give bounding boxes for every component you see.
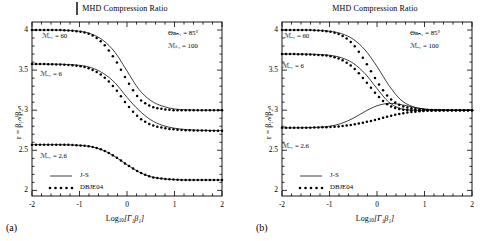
param-theta-bn1: Θʙₙ₁ = 85° [410,29,440,37]
legend-dot-dbje04 [310,187,313,190]
ytick-label: 3.5 [3,65,28,74]
xlabel-log: Log [106,214,119,223]
axis-x-label: Log10[Γ₁β₁] [0,214,250,223]
axis-y-label: r = β₁ₙ/β₂ₙ [264,106,273,139]
curve-dbje04-ma2-6 [31,143,224,181]
curve-dbje04-ma60 [281,29,474,112]
legend-js: J-S [330,171,339,178]
legend-dot-dbje04 [321,187,324,190]
curve-js-ma6 [282,54,472,110]
curve-dbje04-ma2-6 [281,109,474,129]
legend-js: J-S [80,171,89,178]
ytick-label: 2 [253,185,278,194]
legend-dot-dbje04 [49,187,52,190]
curve-label-ma-2p6: ℳₐ₁ = 2.6 [40,152,67,160]
legend-dot-dbje04 [71,187,74,190]
curve-js-ma60 [282,30,472,110]
axis-x-label: Log10[Γ₁β₁] [250,214,500,223]
xtick-label: 0 [115,200,139,209]
legend-dbje04: DBJE04 [330,183,353,190]
ytick-label: 3.5 [253,65,278,74]
curve-js-ma2-6 [32,145,222,180]
xtick-label: -1 [318,200,342,209]
param-ms1: ℳₛ₁ = 100 [168,42,198,50]
curve-dbje04-ma6 [281,53,474,112]
curve-label-ma-6: ℳₐ₁ = 6 [282,62,304,70]
legend-dot-dbje04 [299,187,302,190]
ytick-label: 2.5 [253,145,278,154]
plot-panel-b: MHD Compression Ratio(b)-2-101222.533.54… [250,0,500,241]
xtick-label: 2 [210,200,234,209]
curve-js-ma2-6 [282,103,472,127]
xtick-label: 2 [460,200,484,209]
xtick-label: 0 [365,200,389,209]
xlabel-log: Log [356,214,369,223]
xtick-label: -2 [270,200,294,209]
axis-y-label: r = β₁ₙ/β₂ₙ [14,106,23,139]
legend-dot-dbje04 [65,187,68,190]
curve-label-ma-60: ℳₐ₁ = 60 [284,32,309,40]
legend-dot-dbje04 [315,187,318,190]
xlabel-body: [Γ₁β₁] [374,214,394,223]
xtick-label: -2 [20,200,44,209]
plot-panel-a: MHD Compression Ratio(a)-2-101222.533.54… [0,0,250,241]
xtick-label: 1 [413,200,437,209]
curve-label-ma-6: ℳₐ₁ = 6 [40,70,62,78]
param-theta-bn1: Θʙₙ₁ = 85° [168,29,198,37]
curve-label-ma-60: ℳₐ₁ = 60 [42,32,67,40]
ytick-label: 4 [253,25,278,34]
legend-dbje04: DBJE04 [80,183,103,190]
ytick-label: 4 [3,25,28,34]
legend-dot-dbje04 [54,187,57,190]
figure-root: MHD Compression Ratio(a)-2-101222.533.54… [0,0,500,241]
ytick-label: 2 [3,185,28,194]
xtick-label: 1 [163,200,187,209]
curve-label-ma-2p6: ℳₐ₁ = 2.6 [282,142,309,150]
xlabel-body: [Γ₁β₁] [124,214,144,223]
xtick-label: -1 [68,200,92,209]
param-ms1: ℳₐ₁ = 100 [410,42,439,50]
legend-dot-dbje04 [304,187,307,190]
legend-dot-dbje04 [60,187,63,190]
ytick-label: 2.5 [3,145,28,154]
